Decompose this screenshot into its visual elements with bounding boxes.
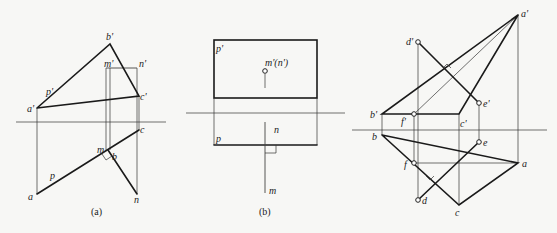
label-n-prime: n' — [139, 58, 147, 69]
line-a-prime-f-prime — [414, 15, 518, 114]
label-d-prime: d' — [406, 36, 414, 47]
point-f — [412, 161, 417, 166]
caption-b: (b) — [259, 206, 271, 218]
label-c-prime: c' — [140, 91, 147, 102]
figure-c: a' d' e' b' f' c' b e f a d c — [352, 8, 547, 218]
line-de — [418, 142, 479, 200]
label-a: a — [522, 158, 527, 169]
point-d — [416, 198, 421, 203]
label-b-prime: b' — [106, 31, 114, 42]
label-c: c — [455, 207, 460, 218]
label-d: d — [422, 195, 428, 206]
label-p-prime: p' — [45, 86, 54, 97]
label-n-b: n — [274, 124, 279, 135]
right-angle-mark-b — [265, 145, 276, 153]
point-d-prime — [416, 40, 421, 45]
point-e — [477, 140, 482, 145]
figure-b: p' m'(n') n p m (b) — [186, 40, 345, 218]
label-a-prime: a' — [521, 8, 529, 19]
label-m-b: m — [269, 185, 276, 196]
label-b: b — [112, 151, 117, 162]
label-b-prime: b' — [370, 109, 378, 120]
plane-a-prime-b-prime-c-prime — [382, 15, 518, 114]
caption-a: (a) — [91, 206, 102, 218]
label-c-prime: c' — [460, 118, 467, 129]
label-e-prime: e' — [483, 98, 490, 109]
label-p: p — [49, 170, 55, 181]
line-d-prime-e-prime — [418, 42, 479, 103]
label-f-prime: f' — [401, 116, 407, 127]
label-a-prime: a' — [27, 103, 35, 114]
label-m-prime: m' — [104, 58, 114, 69]
label-n: n — [134, 194, 139, 205]
projection-diagrams: b' m' n' p' a' c' c m b p a n (a) p' m'(… — [0, 0, 557, 233]
point-m-prime — [263, 69, 268, 74]
label-m: m — [97, 144, 104, 155]
label-f: f — [404, 159, 408, 170]
label-p-prime-b: p' — [215, 43, 224, 54]
point-e-prime — [477, 101, 482, 106]
plane-p-prime — [37, 44, 139, 108]
plane-p-edge — [37, 130, 139, 194]
label-b: b — [372, 131, 377, 142]
label-mn-prime: m'(n') — [265, 57, 289, 69]
label-c: c — [140, 124, 145, 135]
label-p-b: p — [215, 133, 221, 144]
figure-a: b' m' n' p' a' c' c m b p a n (a) — [16, 31, 166, 218]
label-e: e — [483, 137, 488, 148]
point-f-prime — [412, 112, 417, 117]
label-a: a — [28, 191, 33, 202]
